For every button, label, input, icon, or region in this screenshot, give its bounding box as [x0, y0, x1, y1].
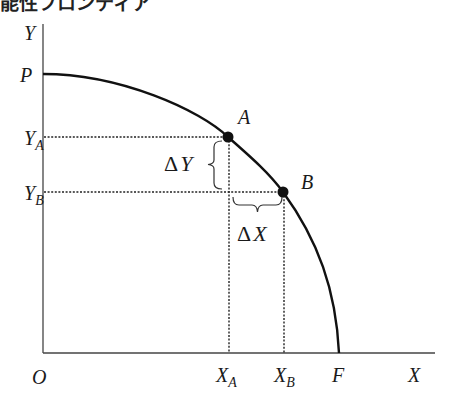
point-b-label: B	[301, 171, 313, 193]
x-axis-label: X	[407, 364, 421, 386]
ppf-diagram: Y P YA YB A B ΔY ΔX O XA XB F X	[0, 0, 455, 399]
delta-y-brace	[208, 141, 222, 189]
y-axis-label: Y	[24, 22, 37, 44]
delta-y-label: ΔY	[164, 151, 195, 176]
frontier-curve	[43, 74, 339, 353]
point-a-label: A	[236, 106, 251, 128]
xb-label: XB	[273, 364, 295, 390]
origin-label: O	[32, 366, 46, 388]
xa-label: XA	[215, 364, 237, 390]
point-b	[278, 187, 289, 198]
f-label: F	[331, 364, 345, 386]
point-a	[223, 132, 234, 143]
yb-label: YB	[24, 182, 44, 208]
delta-x-label: ΔX	[237, 221, 268, 246]
ya-label: YA	[24, 127, 44, 153]
p-label: P	[19, 64, 32, 86]
delta-x-brace	[233, 197, 282, 212]
